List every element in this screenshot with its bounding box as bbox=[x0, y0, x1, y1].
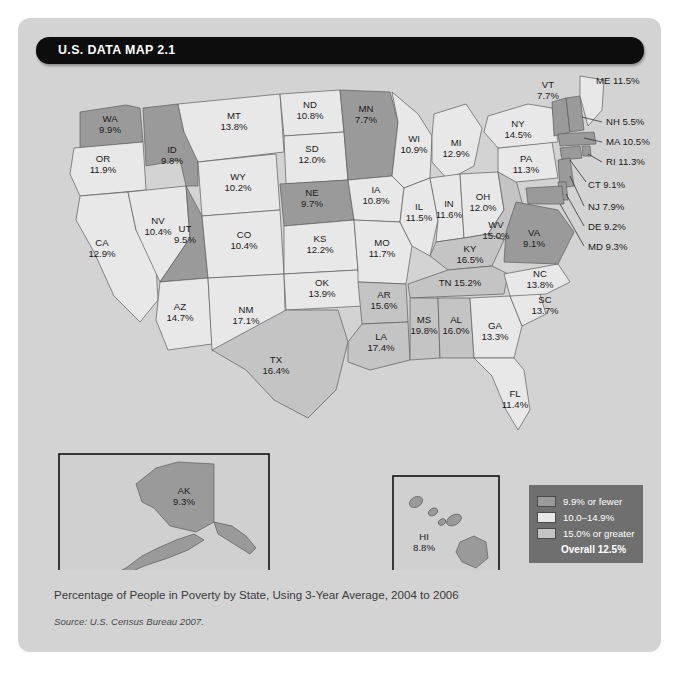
svg-text:MI: MI bbox=[451, 137, 462, 148]
svg-text:OR: OR bbox=[96, 153, 110, 164]
svg-text:10.2%: 10.2% bbox=[224, 182, 252, 193]
svg-text:MD 9.3%: MD 9.3% bbox=[588, 241, 628, 252]
svg-text:9.3%: 9.3% bbox=[173, 496, 195, 507]
svg-text:WA: WA bbox=[102, 113, 118, 124]
legend-label-low: 9.9% or fewer bbox=[563, 496, 622, 507]
callout-de: DE 9.2% bbox=[566, 194, 626, 232]
svg-text:WI: WI bbox=[408, 133, 420, 144]
svg-text:MO: MO bbox=[374, 237, 389, 248]
svg-text:17.4%: 17.4% bbox=[367, 342, 395, 353]
map-legend: 9.9% or fewer 10.0–14.9% 15.0% or greate… bbox=[529, 485, 643, 563]
legend-item-low[interactable]: 9.9% or fewer bbox=[537, 493, 643, 509]
map-source: Source: U.S. Census Bureau 2007. bbox=[54, 616, 204, 627]
svg-text:LA: LA bbox=[375, 331, 387, 342]
svg-text:9.8%: 9.8% bbox=[161, 155, 183, 166]
svg-text:AR: AR bbox=[377, 289, 390, 300]
title-bar: U.S. DATA MAP 2.1 bbox=[36, 37, 644, 64]
svg-text:12.9%: 12.9% bbox=[442, 148, 470, 159]
svg-text:13.7%: 13.7% bbox=[531, 305, 559, 316]
svg-text:ID: ID bbox=[167, 144, 177, 155]
svg-text:RI 11.3%: RI 11.3% bbox=[606, 156, 645, 167]
svg-text:12.2%: 12.2% bbox=[306, 244, 334, 255]
state-shape-ct[interactable] bbox=[560, 146, 582, 160]
svg-text:14.7%: 14.7% bbox=[166, 312, 194, 323]
svg-text:16.0%: 16.0% bbox=[442, 325, 470, 336]
svg-text:VT: VT bbox=[542, 79, 554, 90]
svg-text:TX: TX bbox=[270, 354, 283, 365]
svg-text:ND: ND bbox=[303, 99, 317, 110]
svg-text:16.5%: 16.5% bbox=[456, 254, 484, 265]
state-shape-md[interactable] bbox=[526, 186, 564, 204]
page-title: U.S. DATA MAP 2.1 bbox=[58, 42, 176, 57]
svg-text:WV: WV bbox=[488, 219, 504, 230]
svg-text:12.0%: 12.0% bbox=[298, 154, 326, 165]
svg-text:10.4%: 10.4% bbox=[144, 226, 172, 237]
svg-text:19.8%: 19.8% bbox=[410, 325, 438, 336]
legend-swatch-high bbox=[537, 528, 556, 539]
svg-text:AL: AL bbox=[450, 314, 462, 325]
svg-text:PA: PA bbox=[520, 153, 533, 164]
svg-text:HI: HI bbox=[419, 531, 429, 542]
svg-text:KY: KY bbox=[464, 243, 477, 254]
svg-text:FL: FL bbox=[509, 388, 521, 399]
svg-text:CA: CA bbox=[95, 237, 109, 248]
legend-overall-value: Overall 12.5% bbox=[561, 544, 643, 555]
svg-text:12.0%: 12.0% bbox=[469, 202, 497, 213]
svg-text:16.4%: 16.4% bbox=[262, 365, 290, 376]
state-shape-fl[interactable] bbox=[474, 358, 530, 430]
svg-text:MN: MN bbox=[359, 103, 374, 114]
svg-text:MS: MS bbox=[417, 314, 431, 325]
svg-text:CT 9.1%: CT 9.1% bbox=[588, 179, 626, 190]
data-map-page: U.S. DATA MAP 2.1 bbox=[0, 0, 679, 678]
map-caption: Percentage of People in Poverty by State… bbox=[54, 588, 459, 601]
legend-label-high: 15.0% or greater bbox=[563, 528, 634, 539]
svg-text:OH: OH bbox=[476, 191, 490, 202]
svg-text:OK: OK bbox=[315, 277, 329, 288]
svg-text:IL: IL bbox=[415, 201, 424, 212]
svg-text:15.6%: 15.6% bbox=[370, 300, 398, 311]
callout-ri: RI 11.3% bbox=[588, 154, 645, 167]
svg-text:VA: VA bbox=[528, 227, 541, 238]
svg-text:10.8%: 10.8% bbox=[362, 195, 390, 206]
svg-text:9.1%: 9.1% bbox=[523, 238, 545, 249]
svg-text:13.8%: 13.8% bbox=[220, 121, 248, 132]
svg-text:DE 9.2%: DE 9.2% bbox=[588, 221, 626, 232]
svg-text:11.6%: 11.6% bbox=[436, 209, 463, 220]
legend-rows: 9.9% or fewer 10.0–14.9% 15.0% or greate… bbox=[529, 485, 643, 555]
svg-text:14.5%: 14.5% bbox=[504, 129, 532, 140]
svg-text:7.7%: 7.7% bbox=[355, 114, 377, 125]
svg-text:NC: NC bbox=[533, 268, 547, 279]
svg-text:MA 10.5%: MA 10.5% bbox=[606, 136, 650, 147]
legend-item-high[interactable]: 15.0% or greater bbox=[537, 525, 643, 541]
svg-text:NH 5.5%: NH 5.5% bbox=[606, 116, 645, 127]
svg-text:AZ: AZ bbox=[174, 301, 186, 312]
svg-text:NV: NV bbox=[151, 215, 165, 226]
svg-text:SD: SD bbox=[305, 143, 318, 154]
svg-text:WY: WY bbox=[230, 171, 246, 182]
svg-text:SC: SC bbox=[538, 294, 551, 305]
svg-text:15.0%: 15.0% bbox=[482, 230, 510, 241]
svg-text:NY: NY bbox=[511, 118, 525, 129]
svg-text:9.7%: 9.7% bbox=[301, 198, 323, 209]
svg-text:12.9%: 12.9% bbox=[88, 248, 116, 259]
svg-text:13.8%: 13.8% bbox=[526, 279, 554, 290]
svg-text:GA: GA bbox=[488, 320, 502, 331]
svg-text:9.9%: 9.9% bbox=[99, 124, 121, 135]
svg-text:13.9%: 13.9% bbox=[308, 288, 336, 299]
svg-text:CO: CO bbox=[237, 229, 251, 240]
svg-text:KS: KS bbox=[314, 233, 327, 244]
svg-text:IN: IN bbox=[444, 198, 454, 209]
svg-text:11.4%: 11.4% bbox=[502, 399, 529, 410]
svg-text:13.3%: 13.3% bbox=[481, 331, 509, 342]
state-label-tn: TN 15.2% bbox=[439, 277, 482, 288]
svg-text:10.4%: 10.4% bbox=[230, 240, 258, 251]
svg-text:MT: MT bbox=[227, 110, 241, 121]
legend-item-mid[interactable]: 10.0–14.9% bbox=[537, 509, 643, 525]
callout-me: ME 11.5% bbox=[596, 75, 640, 86]
svg-text:7.7%: 7.7% bbox=[537, 90, 559, 101]
svg-text:IA: IA bbox=[371, 184, 381, 195]
legend-swatch-low bbox=[537, 496, 556, 507]
svg-text:NE: NE bbox=[305, 187, 318, 198]
state-label-vt: VT 7.7% bbox=[537, 79, 559, 101]
svg-text:11.5%: 11.5% bbox=[406, 212, 433, 223]
